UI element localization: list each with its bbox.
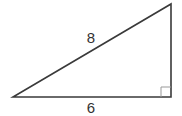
triangle-diagram: 8 6 bbox=[0, 0, 182, 116]
base-label: 6 bbox=[87, 99, 95, 116]
right-triangle bbox=[13, 4, 171, 97]
right-angle-marker bbox=[161, 87, 171, 97]
hypotenuse-label: 8 bbox=[87, 29, 95, 46]
